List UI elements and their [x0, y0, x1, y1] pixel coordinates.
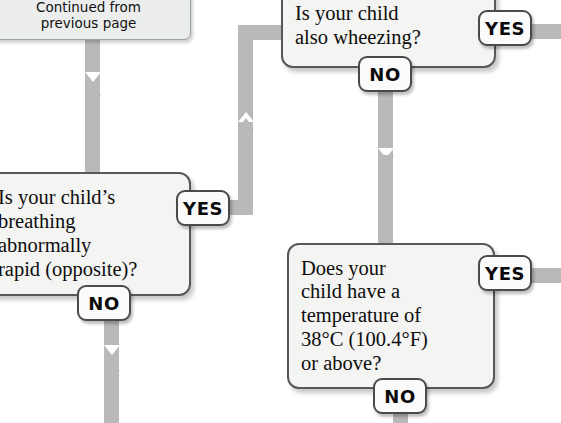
chevron-down-icon-rapid-no: [104, 370, 120, 381]
badge-temperature-no-label: NO: [384, 386, 415, 407]
connector-continued-to-rapid: [85, 38, 100, 183]
badge-wheezing-yes-label: YES: [485, 18, 525, 39]
badge-temperature-no[interactable]: NO: [373, 378, 427, 414]
chevron-down-icon-continued: [85, 95, 101, 106]
decision-rapid-breathing-text: Is your child’s breathing abnormally rap…: [0, 182, 149, 285]
badge-rapid-breathing-no-label: NO: [88, 293, 119, 314]
connector-notch-rapid-no: [104, 345, 120, 355]
chevron-down-icon-wheezing-no: [378, 155, 394, 166]
badge-rapid-breathing-no[interactable]: NO: [77, 285, 131, 321]
connector-notch-continued: [85, 72, 101, 82]
flowchart-canvas: Continued from previous page Is your chi…: [0, 0, 561, 423]
badge-temperature-yes[interactable]: YES: [478, 255, 532, 291]
decision-temperature-text: Does your child have a temperature of 38…: [289, 253, 440, 380]
badge-rapid-breathing-yes[interactable]: YES: [176, 190, 230, 226]
badge-wheezing-no-label: NO: [369, 64, 400, 85]
badge-rapid-breathing-yes-label: YES: [183, 198, 223, 219]
decision-rapid-breathing[interactable]: Is your child’s breathing abnormally rap…: [0, 172, 191, 296]
note-continued-from-previous-page: Continued from previous page: [0, 0, 191, 40]
badge-temperature-yes-label: YES: [485, 263, 525, 284]
decision-temperature[interactable]: Does your child have a temperature of 38…: [287, 243, 495, 389]
note-continued-text: Continued from previous page: [0, 0, 190, 34]
badge-wheezing-yes[interactable]: YES: [478, 10, 532, 46]
badge-wheezing-no[interactable]: NO: [358, 56, 412, 92]
chevron-up-icon-rapid-yes: [238, 118, 254, 129]
decision-wheezing-text: Is your child also wheezing?: [283, 0, 433, 54]
